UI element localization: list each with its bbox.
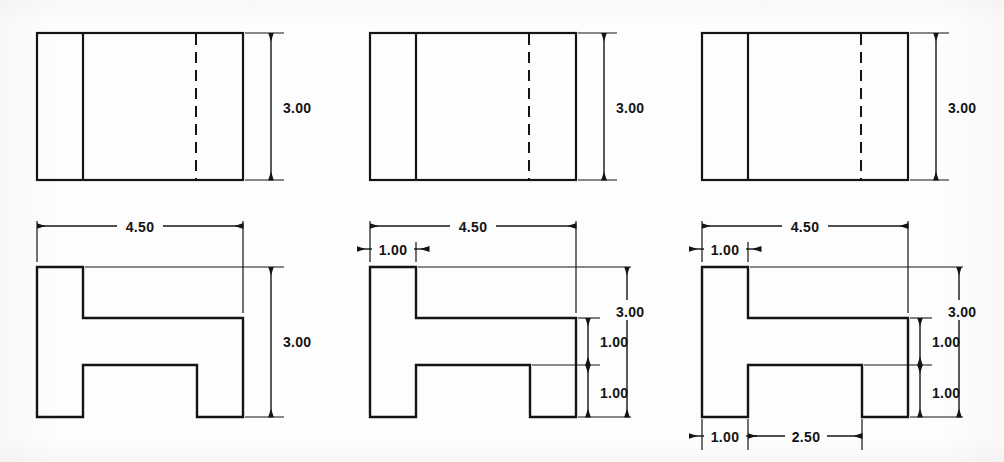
dimension-label-4-50: 4.50 bbox=[791, 219, 819, 235]
dimension-label-1-00: 1.00 bbox=[711, 429, 739, 445]
dimension-label-3-00: 3.00 bbox=[948, 304, 976, 320]
dimension-label-3-00: 3.00 bbox=[948, 100, 976, 116]
dimension-label-1-00: 1.00 bbox=[932, 385, 960, 401]
stage-2-group: 3.00 4.50 1.00 3.00 bbox=[357, 33, 644, 417]
top-view-outline bbox=[37, 33, 243, 180]
dimension-label-2-50: 2.50 bbox=[792, 429, 820, 445]
dimension-label-1-00: 1.00 bbox=[600, 385, 628, 401]
top-view-outline bbox=[370, 33, 576, 180]
dimension-label-3-00: 3.00 bbox=[616, 304, 644, 320]
stage-2-top-view: 3.00 bbox=[370, 33, 644, 180]
dimension-label-1-00: 1.00 bbox=[932, 334, 960, 350]
front-view-h-profile-outline bbox=[37, 267, 243, 417]
stage-3-top-view: 3.00 bbox=[702, 33, 976, 180]
dimension-label-1-00: 1.00 bbox=[600, 334, 628, 350]
dimension-label-3-00: 3.00 bbox=[283, 334, 311, 350]
front-view-h-profile-outline bbox=[370, 267, 576, 417]
dimension-label-1-00: 1.00 bbox=[379, 242, 407, 258]
stage-3-front-view: 4.50 1.00 3.00 1.00 1.00 bbox=[689, 216, 976, 450]
technical-drawing-canvas: 3.00 4.50 3.00 bbox=[0, 0, 1004, 462]
stage-3-group: 3.00 4.50 1.00 3.00 bbox=[689, 33, 976, 450]
stage-2-front-view: 4.50 1.00 3.00 1.00 1.00 bbox=[357, 216, 644, 417]
front-view-h-profile-outline bbox=[702, 267, 908, 417]
dimension-label-3-00: 3.00 bbox=[283, 100, 311, 116]
dimension-label-3-00: 3.00 bbox=[616, 100, 644, 116]
stage-1-front-view: 4.50 3.00 bbox=[37, 216, 311, 417]
top-view-outline bbox=[702, 33, 908, 180]
dimension-label-4-50: 4.50 bbox=[126, 219, 154, 235]
dimension-label-1-00: 1.00 bbox=[711, 242, 739, 258]
stage-1-group: 3.00 4.50 3.00 bbox=[37, 33, 311, 417]
stage-1-top-view: 3.00 bbox=[37, 33, 311, 180]
dimension-label-4-50: 4.50 bbox=[459, 219, 487, 235]
drawing-sheet: 3.00 4.50 3.00 bbox=[0, 0, 1004, 462]
